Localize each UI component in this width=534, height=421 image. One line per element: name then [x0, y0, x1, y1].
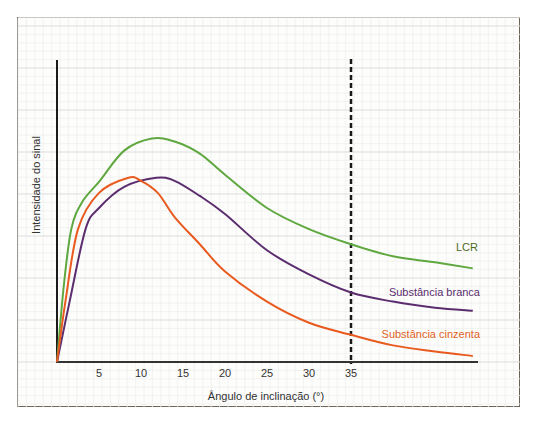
x-tick-label: 30 [303, 367, 315, 379]
x-tick-label: 25 [261, 367, 273, 379]
y-axis-title: Intensidade do sinal [30, 136, 42, 234]
x-tick-label: 20 [219, 367, 231, 379]
x-tick-label: 35 [345, 367, 357, 379]
x-tick-label: 10 [135, 367, 147, 379]
series-label-white-matter: Substância branca [389, 286, 481, 298]
series-label-gray-matter: Substância cinzenta [382, 328, 481, 340]
line-chart: 5101520253035 Ângulo de inclinação (°) I… [0, 0, 534, 421]
x-axis-title: Ângulo de inclinação (°) [208, 390, 324, 402]
x-tick-labels: 5101520253035 [96, 367, 357, 379]
x-tick-label: 15 [177, 367, 189, 379]
series-label-lcr: LCR [456, 241, 478, 253]
x-tick-label: 5 [96, 367, 102, 379]
